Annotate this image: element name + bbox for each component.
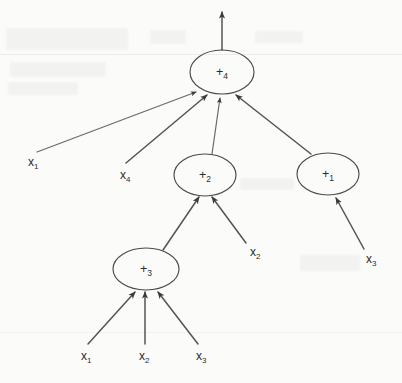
- node-n3[interactable]: +3: [113, 248, 179, 290]
- node-label-n2: +2: [199, 168, 211, 184]
- input-label-x3-bottom: x3: [196, 349, 207, 365]
- edge-x1-bottom-to-n3: [88, 292, 135, 344]
- node-n4[interactable]: +4: [190, 50, 254, 94]
- edge-n3-to-n2: [163, 197, 199, 250]
- node-label-n1: +1: [322, 167, 334, 183]
- edge-x1-left-to-n4: [37, 92, 196, 152]
- edge-n2-to-n4: [212, 98, 220, 154]
- diagram-canvas: +4 +2 +1 +3 x1 x4: [0, 0, 402, 383]
- input-label-x1-left: x1: [28, 155, 39, 171]
- input-label-group: x1 x4 x2 x3 x1 x2 x3: [28, 155, 377, 365]
- input-label-x2-mid: x2: [250, 245, 261, 261]
- node-label-n4: +4: [216, 65, 228, 81]
- node-n1[interactable]: +1: [297, 153, 359, 195]
- input-label-x4: x4: [120, 168, 131, 184]
- edge-n1-to-n4: [236, 95, 311, 154]
- edge-x3-bottom-to-n3: [158, 292, 198, 344]
- node-label-n3: +3: [140, 262, 152, 278]
- node-n2[interactable]: +2: [174, 154, 236, 196]
- edge-x4-to-n4: [126, 95, 207, 163]
- input-label-x1-bottom: x1: [81, 349, 92, 365]
- edge-x3-right-to-n1: [336, 198, 364, 249]
- diagram-graphics: +4 +2 +1 +3 x1 x4: [0, 0, 402, 383]
- input-label-x3-right: x3: [366, 252, 377, 268]
- input-label-x2-bottom: x2: [139, 349, 150, 365]
- edge-x2-mid-to-n2: [212, 197, 246, 243]
